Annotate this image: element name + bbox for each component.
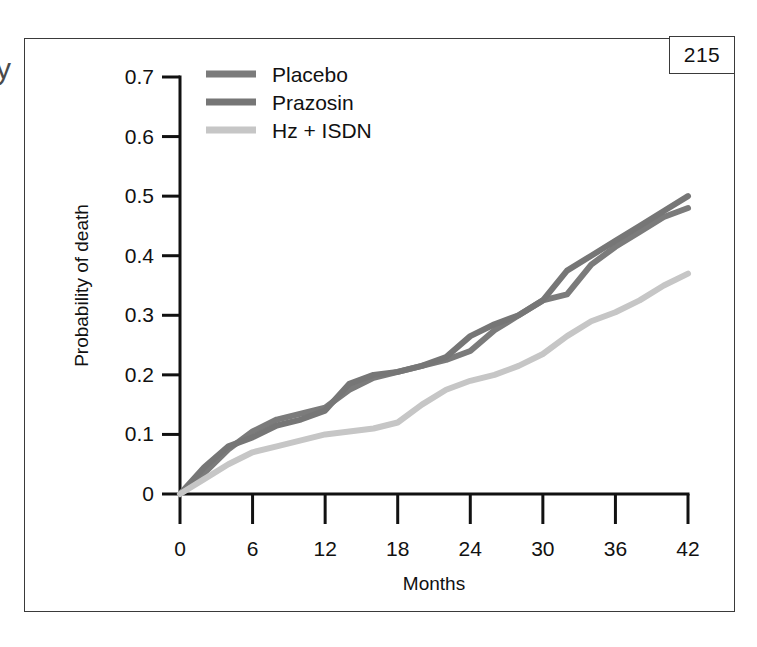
legend-label-2: Prazosin [272, 91, 354, 114]
survival-curve-chart: 00.10.20.30.40.50.60.706121824303642Mont… [24, 38, 735, 612]
x-tick-label: 6 [247, 537, 259, 560]
x-tick-label: 0 [174, 537, 186, 560]
series-line-hz-isdn [180, 274, 688, 494]
y-tick-label: 0 [142, 482, 154, 505]
x-tick-label: 42 [676, 537, 699, 560]
x-tick-label: 24 [459, 537, 483, 560]
x-tick-label: 36 [604, 537, 627, 560]
page-number-label: 215 [684, 43, 721, 67]
y-tick-label: 0.3 [125, 303, 154, 326]
legend-label-1: Placebo [272, 63, 348, 86]
y-tick-label: 0.4 [125, 244, 155, 267]
figure-page: y 00.10.20.30.40.50.60.706121824303642Mo… [0, 0, 757, 647]
legend-label-3: Hz + ISDN [272, 119, 372, 142]
page-number-box: 215 [669, 36, 735, 74]
y-tick-label: 0.1 [125, 422, 154, 445]
x-tick-label: 12 [313, 537, 336, 560]
y-tick-label: 0.5 [125, 184, 154, 207]
x-tick-label: 18 [386, 537, 409, 560]
y-tick-label: 0.7 [125, 65, 154, 88]
x-tick-label: 30 [531, 537, 554, 560]
cut-off-edge-glyph: y [0, 54, 11, 84]
y-tick-label: 0.2 [125, 363, 154, 386]
y-tick-label: 0.6 [125, 125, 154, 148]
y-axis-title: Probability of death [71, 204, 92, 367]
x-axis-title: Months [403, 573, 465, 594]
